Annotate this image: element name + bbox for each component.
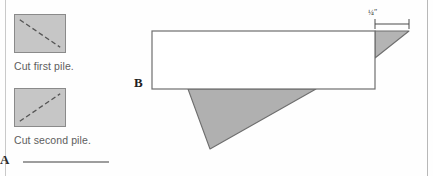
right-divider-rule (427, 0, 428, 176)
first-pile-caption: Cut first pile. (14, 60, 124, 72)
section-a-label: A (0, 152, 9, 168)
section-b-diagram: B ¼″ (120, 0, 420, 176)
section-b-illustration (120, 0, 420, 176)
second-pile-swatch (14, 88, 66, 127)
dimension-label: ¼″ (368, 8, 377, 17)
dimension-line (375, 19, 409, 29)
fabric-rectangle (152, 31, 375, 89)
first-pile-diagonal-icon (15, 15, 65, 52)
section-b-label: B (134, 75, 143, 91)
bottom-cut-triangle (188, 89, 316, 149)
first-pile-swatch (14, 14, 66, 53)
second-pile-caption: Cut second pile. (14, 134, 124, 146)
second-pile-diagonal-icon (15, 89, 65, 126)
left-divider-rule (5, 0, 6, 176)
left-instruction-column: Cut first pile. Cut second pile. A (14, 0, 114, 176)
diagram-page: Cut first pile. Cut second pile. A (0, 0, 433, 176)
top-right-cut-triangle (375, 31, 409, 58)
section-a-rule (23, 161, 109, 163)
